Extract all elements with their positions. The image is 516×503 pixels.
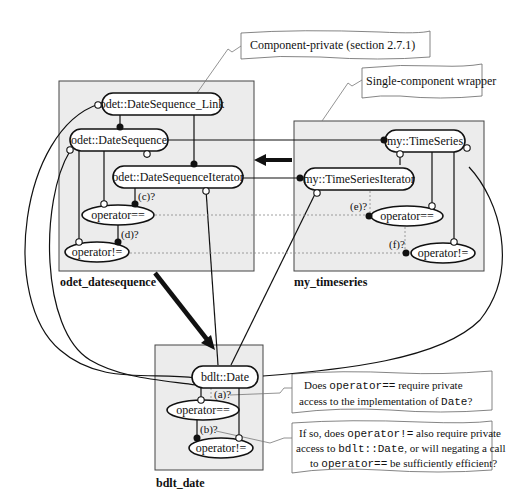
node-odet-operator-eq: operator== bbox=[82, 205, 154, 225]
svg-text:operator==: operator== bbox=[176, 403, 230, 417]
svg-text:operator!=: operator!= bbox=[72, 245, 123, 259]
dependency-diagram: odet_datesequence my_timeseries bdlt_dat… bbox=[0, 0, 516, 503]
node-my-operator-ne: operator!= bbox=[411, 243, 475, 263]
svg-text:to operator== be sufficiently: to operator== be sufficiently efficient? bbox=[310, 457, 497, 470]
open-dot bbox=[464, 145, 470, 151]
open-dot bbox=[144, 151, 150, 157]
svg-text:odet::DateSequence: odet::DateSequence bbox=[71, 133, 167, 147]
svg-text:operator==: operator== bbox=[380, 209, 434, 223]
filled-dot bbox=[297, 175, 304, 182]
filled-dot bbox=[403, 250, 410, 257]
node-bdlt-date: bdlt::Date bbox=[192, 366, 258, 388]
note-single-component-wrapper: Single-component wrapper bbox=[322, 64, 496, 121]
svg-text:operator==: operator== bbox=[91, 208, 145, 222]
node-my-timeseriesiterator: my::TimeSeriesIterator bbox=[303, 168, 415, 190]
open-dot bbox=[397, 151, 403, 157]
open-dot bbox=[95, 102, 101, 108]
svg-text:my::TimeSeriesIterator: my::TimeSeriesIterator bbox=[303, 172, 415, 186]
edge-label-f: (f)? bbox=[389, 238, 405, 251]
package-label-bdlt-date: bdlt_date bbox=[156, 476, 205, 490]
open-dot bbox=[198, 397, 204, 403]
filled-dot bbox=[366, 213, 373, 220]
package-label-odet-datesequence: odet_datesequence bbox=[60, 275, 157, 289]
svg-text:Component-private (section 2.7: Component-private (section 2.7.1) bbox=[250, 38, 415, 52]
svg-text:operator!=: operator!= bbox=[418, 246, 469, 260]
edge-label-e: (e)? bbox=[350, 200, 367, 213]
edge-label-a: (a)? bbox=[214, 388, 231, 401]
svg-text:access to bdlt::Date, or will: access to bdlt::Date, or will negating a… bbox=[296, 442, 506, 455]
edge-label-c: (c)? bbox=[138, 190, 155, 203]
svg-text:If so, does operator!= also re: If so, does operator!= also require priv… bbox=[299, 427, 501, 440]
filled-dot bbox=[194, 435, 201, 442]
node-odet-datesequenceiterator: odet::DateSequenceIterator bbox=[112, 166, 243, 188]
svg-text:Does operator== require privat: Does operator== require private bbox=[304, 379, 463, 392]
svg-text:my::TimeSeries: my::TimeSeries bbox=[387, 134, 464, 148]
open-dot bbox=[236, 435, 242, 441]
open-dot bbox=[314, 190, 320, 196]
node-my-timeseries: my::TimeSeries bbox=[385, 130, 465, 152]
edge-label-d: (d)? bbox=[121, 228, 139, 241]
svg-text:access to the implementation o: access to the implementation of Date? bbox=[299, 395, 472, 408]
filled-dot bbox=[191, 161, 198, 168]
svg-text:operator!=: operator!= bbox=[196, 441, 247, 455]
node-odet-datesequence: odet::DateSequence bbox=[70, 129, 168, 151]
thick-arrow-ts-to-ds bbox=[254, 154, 292, 166]
svg-text:Single-component wrapper: Single-component wrapper bbox=[366, 74, 496, 88]
edge-label-b: (b)? bbox=[200, 423, 218, 436]
open-dot bbox=[451, 239, 457, 245]
svg-text:odet::DateSequence_Link: odet::DateSequence_Link bbox=[100, 97, 225, 111]
open-dot bbox=[203, 188, 209, 194]
package-label-my-timeseries: my_timeseries bbox=[294, 275, 368, 289]
open-dot bbox=[67, 147, 73, 153]
note-question-a: Does operator== require private access t… bbox=[230, 371, 492, 413]
filled-dot bbox=[381, 137, 388, 144]
open-dot bbox=[429, 203, 435, 209]
open-dot bbox=[101, 201, 107, 207]
open-dot bbox=[76, 239, 82, 245]
svg-text:odet::DateSequenceIterator: odet::DateSequenceIterator bbox=[112, 170, 243, 184]
svg-text:bdlt::Date: bdlt::Date bbox=[201, 370, 249, 384]
filled-dot bbox=[117, 124, 124, 131]
thick-arrow-ds-to-date bbox=[155, 273, 215, 350]
node-odet-datesequence-link: odet::DateSequence_Link bbox=[100, 93, 225, 115]
